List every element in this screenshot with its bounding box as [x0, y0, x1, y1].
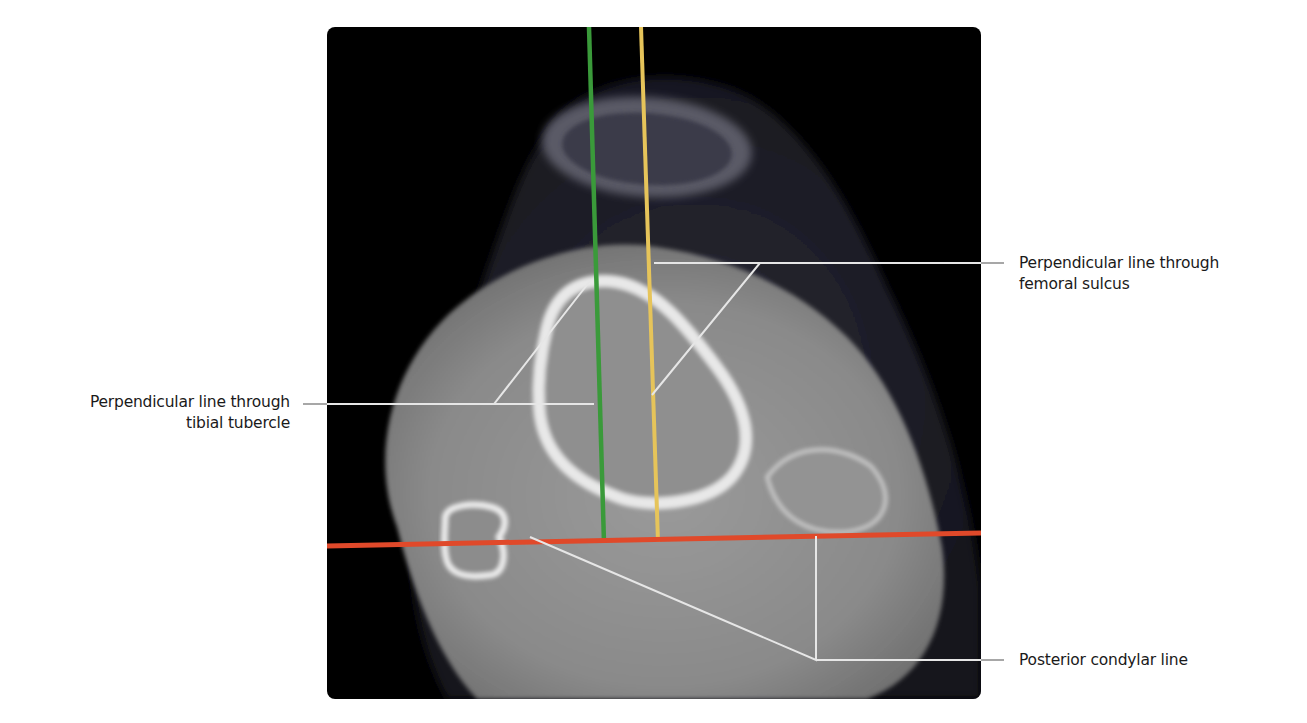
- label-tibial-tubercle-line1: Perpendicular line through: [0, 392, 290, 413]
- label-tibial-tubercle: Perpendicular line through tibial tuberc…: [0, 392, 290, 434]
- label-femoral-sulcus-line1: Perpendicular line through: [1019, 253, 1299, 274]
- label-femoral-sulcus-line2: femoral sulcus: [1019, 274, 1299, 295]
- ct-scan-svg: [327, 27, 981, 699]
- label-posterior-condylar: Posterior condylar line: [1019, 650, 1299, 671]
- ct-figure: Perpendicular line through tibial tuberc…: [0, 0, 1307, 723]
- label-posterior-condylar-line1: Posterior condylar line: [1019, 650, 1299, 671]
- ct-scan-image: [327, 27, 981, 699]
- label-femoral-sulcus: Perpendicular line through femoral sulcu…: [1019, 253, 1299, 295]
- label-tibial-tubercle-line2: tibial tubercle: [0, 413, 290, 434]
